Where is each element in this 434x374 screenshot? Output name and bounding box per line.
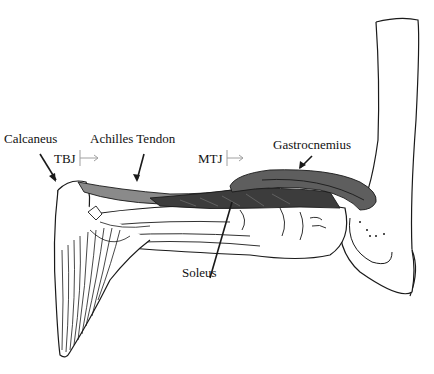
mtj-marker: [227, 150, 243, 166]
soleus-muscle: [150, 188, 340, 208]
soleus-label: Soleus: [182, 266, 217, 279]
gastrocnemius-label: Gastrocnemius: [273, 138, 351, 151]
achilles-anatomy-diagram: Calcaneus Achilles Tendon TBJ MTJ Gastro…: [0, 0, 434, 374]
mtj-label: MTJ: [198, 152, 223, 165]
leg-illustration: [0, 0, 434, 374]
tbj-label: TBJ: [54, 152, 76, 165]
femur-left-edge: [368, 22, 379, 190]
achilles-tendon-label: Achilles Tendon: [90, 132, 175, 145]
tbj-marker: [80, 150, 98, 166]
calcaneus-label: Calcaneus: [4, 132, 57, 145]
